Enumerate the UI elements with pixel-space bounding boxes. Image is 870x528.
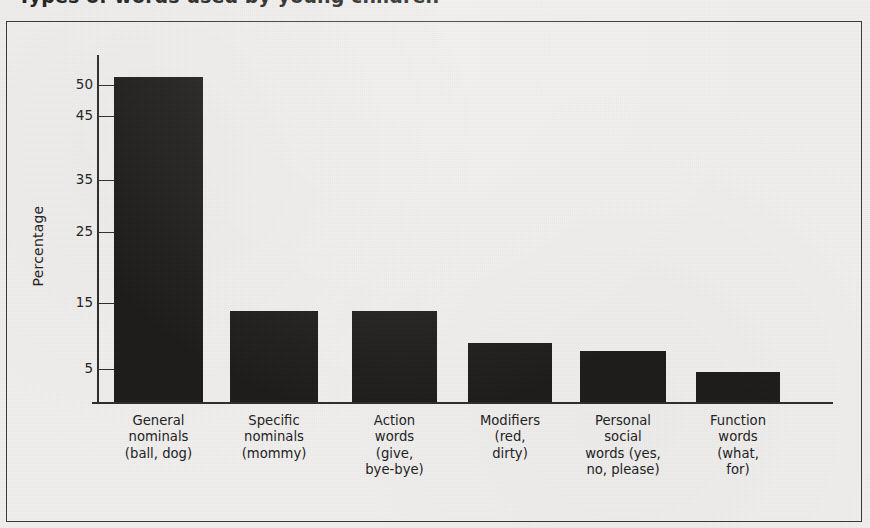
y-tick-label: 50 bbox=[53, 78, 93, 92]
category-label-specific-nominals: Specific nominals (mommy) bbox=[206, 413, 342, 462]
bar-specific-nominals bbox=[230, 311, 318, 402]
y-tick-label: 5 bbox=[53, 362, 93, 376]
category-label-action-words: Action words (give, bye-bye) bbox=[328, 413, 461, 479]
y-tick-label: 25 bbox=[53, 225, 93, 239]
bar-personal-social-words bbox=[580, 351, 666, 402]
x-axis-line bbox=[92, 402, 833, 404]
bar-function-words bbox=[696, 372, 780, 402]
y-tick-mark bbox=[99, 180, 114, 181]
y-axis-line bbox=[97, 55, 99, 404]
category-label-function-words: Function words (what, for) bbox=[672, 413, 804, 479]
y-tick-mark bbox=[99, 303, 114, 304]
y-axis-title: Percentage bbox=[30, 191, 46, 301]
bar-general-nominals bbox=[114, 77, 203, 402]
bar-modifiers bbox=[468, 343, 552, 402]
y-tick-mark bbox=[99, 369, 114, 370]
y-tick-label: 15 bbox=[53, 296, 93, 310]
y-tick-mark bbox=[99, 116, 114, 117]
y-tick-mark bbox=[99, 85, 114, 86]
y-tick-label: 45 bbox=[53, 109, 93, 123]
category-label-personal-social-words: Personal social words (yes, no, please) bbox=[556, 413, 690, 479]
bar-chart: Percentage 50453525155 General nominals … bbox=[0, 0, 870, 528]
y-tick-mark bbox=[99, 232, 114, 233]
y-tick-label: 35 bbox=[53, 173, 93, 187]
bar-action-words bbox=[352, 311, 437, 402]
